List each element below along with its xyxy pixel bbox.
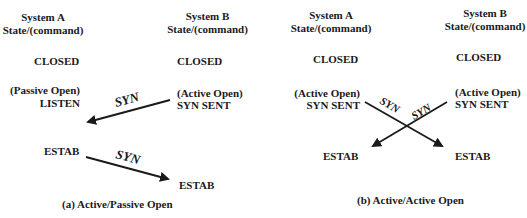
panel-a-syn-arrow-a-to-b: SYN: [86, 146, 168, 179]
panel-b-syn-arrow-a-to-b: SYN: [365, 94, 442, 146]
arrows-layer: SYN SYN SYN SYN: [0, 0, 527, 218]
panel-a-syn-label-2: SYN: [114, 146, 142, 167]
panel-a-syn-label-1: SYN: [113, 89, 141, 110]
panel-a-syn-arrow-b-to-a: SYN: [88, 89, 170, 122]
panel-b-syn-label-2: SYN: [409, 100, 434, 121]
